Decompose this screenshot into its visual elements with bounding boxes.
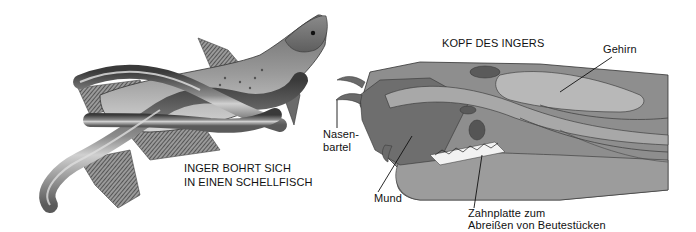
label-barbel-line2: bartel [323, 141, 351, 154]
illustration-canvas [0, 0, 696, 232]
head-diagram-title: KOPF DES INGERS [442, 37, 544, 50]
label-barbel-line1: Nasen- [323, 128, 359, 141]
left-caption-line1: INGER BOHRT SICH [184, 162, 291, 175]
label-tooth-plate-line2: Abreißen von Beutestücken [468, 219, 606, 232]
left-caption-line2: IN EINEN SCHELLFISCH [184, 176, 313, 189]
label-brain: Gehirn [603, 43, 637, 56]
eel-head-cross-section [336, 57, 668, 208]
label-mouth: Mund [374, 192, 402, 205]
